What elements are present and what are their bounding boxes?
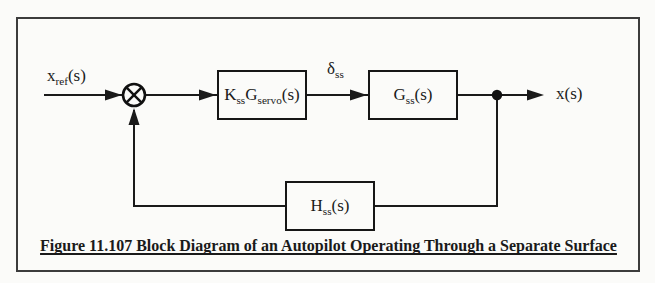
surface-deflection-label: δss bbox=[327, 59, 344, 79]
summing-junction-icon bbox=[123, 84, 145, 106]
feedback-transfer-block: Hss(s) bbox=[285, 181, 375, 231]
figure-caption: Figure 11.107 Block Diagram of an Autopi… bbox=[16, 237, 641, 255]
plant-transfer-block: Gss(s) bbox=[368, 70, 458, 120]
feedback-block-label: Hss(s) bbox=[311, 196, 350, 216]
servo-transfer-block: KssGservo(s) bbox=[217, 70, 307, 120]
arrowhead-output bbox=[527, 90, 544, 101]
input-signal-label: xref(s) bbox=[47, 66, 86, 86]
arrowhead-into-servo-block bbox=[199, 90, 216, 101]
output-signal-label: x(s) bbox=[556, 84, 582, 104]
servo-block-label: KssGservo(s) bbox=[224, 85, 300, 105]
arrowhead-into-plant-block bbox=[350, 90, 367, 101]
branch-node-icon bbox=[492, 90, 502, 100]
arrowhead-feedback-up bbox=[129, 108, 140, 125]
plant-block-label: Gss(s) bbox=[394, 85, 433, 105]
figure-canvas: KssGservo(s) Gss(s) Hss(s) xref(s) δss x… bbox=[0, 0, 655, 283]
arrowhead-into-summing-junction bbox=[105, 90, 122, 101]
